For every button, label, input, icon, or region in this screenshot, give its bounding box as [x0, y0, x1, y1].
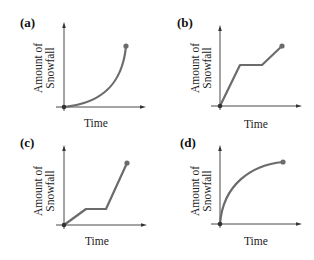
plot-d	[157, 130, 314, 260]
snowfall-curve-d	[220, 162, 283, 224]
x-axis-c	[56, 223, 147, 227]
snowfall-curve-c	[64, 163, 127, 225]
plot-b	[157, 0, 314, 130]
graph-panel-d: (d) Amount of Snowfall Time	[157, 130, 314, 260]
graph-panel-b: (b) Amount of Snowfall Time	[157, 0, 314, 130]
graph-panel-c: (c) Amount of Snowfall Time	[0, 130, 157, 260]
graph-panel-a: (a) Amount of Snowfall Time	[0, 0, 157, 130]
snowfall-curve-a	[64, 46, 126, 107]
x-axis-d	[211, 222, 302, 226]
end-point-d	[280, 159, 285, 164]
start-point-d	[218, 222, 223, 227]
y-axis-b	[218, 25, 222, 110]
start-point-c	[62, 223, 67, 228]
y-axis-a	[62, 22, 66, 111]
end-point-c	[124, 160, 129, 165]
x-axis-b	[211, 104, 302, 108]
plot-c	[0, 130, 157, 260]
end-point-a	[123, 43, 128, 48]
start-point-b	[218, 104, 223, 109]
snowfall-curve-b	[220, 46, 282, 106]
end-point-b	[279, 43, 284, 48]
plot-a	[0, 0, 157, 130]
start-point-a	[62, 105, 67, 110]
y-axis-c	[62, 145, 66, 229]
